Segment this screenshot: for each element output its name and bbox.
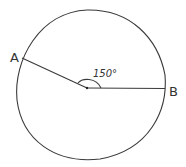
- point-b-label: B: [169, 84, 178, 99]
- circle-outline: [17, 10, 166, 160]
- center-point: [86, 87, 88, 89]
- radius-a: [22, 58, 87, 88]
- angle-arc: [78, 79, 101, 88]
- point-a-label: A: [10, 50, 19, 65]
- radius-b: [87, 88, 165, 89]
- circle-diagram: A B 150°: [0, 0, 186, 167]
- angle-label: 150°: [93, 68, 117, 79]
